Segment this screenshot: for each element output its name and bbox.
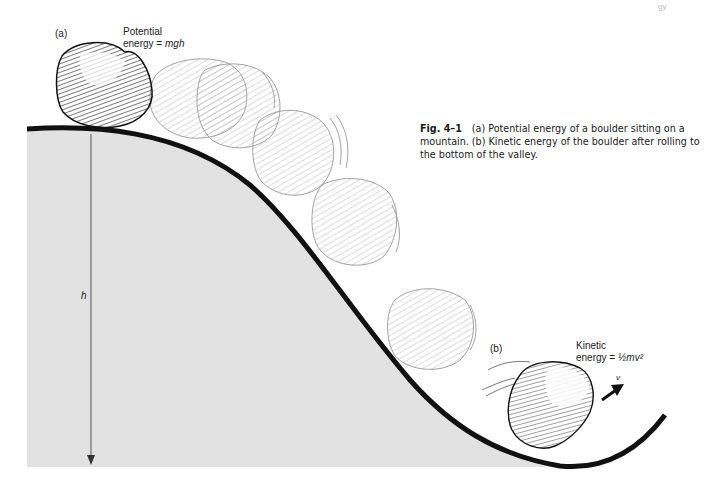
potential-energy-label: Potential energy = mgh (123, 26, 184, 50)
figure-caption: Fig. 4–1(a) Potential energy of a boulde… (420, 122, 716, 161)
energy-figure (0, 0, 716, 491)
kinetic-energy-label: Kinetic energy = ½mv² (576, 340, 643, 364)
height-symbol: h (81, 290, 87, 302)
boulder-b (482, 361, 593, 448)
kinetic-line2-prefix: energy = (576, 352, 618, 363)
potential-line1: Potential (123, 26, 184, 38)
figure-number: Fig. 4–1 (420, 123, 462, 134)
potential-formula: mgh (165, 38, 184, 49)
kinetic-line1: Kinetic (576, 340, 643, 352)
kinetic-formula: ½mv² (618, 352, 643, 363)
velocity-symbol: v (616, 372, 620, 384)
label-b: (b) (490, 343, 502, 355)
potential-line2-prefix: energy = (123, 38, 165, 49)
boulder-a (56, 43, 152, 128)
velocity-arrow (602, 384, 624, 400)
label-a: (a) (55, 28, 67, 40)
